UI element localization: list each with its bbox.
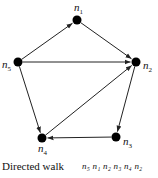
edge-n2-n3 xyxy=(117,66,134,131)
edge-n5-n4 xyxy=(19,66,40,132)
edge-n5-n1 xyxy=(22,23,73,59)
edge-n3-n4 xyxy=(47,137,111,138)
walk-sequence: n₅ n₁ n₂ n₃ n₄ n₂ xyxy=(82,161,142,171)
node-n2 xyxy=(132,58,141,67)
node-label-n5: n5 xyxy=(2,59,11,73)
caption: Directed walk xyxy=(2,160,64,172)
nodes xyxy=(14,16,141,143)
node-label-n3: n3 xyxy=(123,136,132,150)
node-n1 xyxy=(73,16,82,25)
graph-canvas xyxy=(0,0,158,178)
node-label-n1: n1 xyxy=(74,2,83,16)
node-n5 xyxy=(14,58,23,67)
node-label-n2: n2 xyxy=(143,60,152,74)
node-label-n4: n4 xyxy=(38,143,47,157)
edges xyxy=(19,23,134,138)
edge-n1-n2 xyxy=(81,23,132,59)
node-n3 xyxy=(112,133,121,142)
